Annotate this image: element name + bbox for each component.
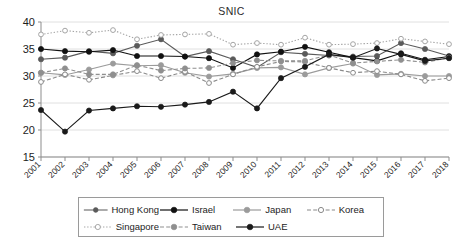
data-point (159, 33, 164, 38)
data-point (134, 104, 139, 109)
data-point (255, 64, 260, 69)
x-axis-tick-label: 2007 (166, 159, 187, 180)
series-hong-kong (38, 37, 451, 70)
legend-item-hong-kong[interactable]: Hong Kong (83, 204, 159, 216)
legend-key-taiwan (159, 221, 189, 233)
data-point (86, 49, 91, 54)
chart-legend: Hong KongIsraelJapanKorea SingaporeTaiwa… (78, 197, 384, 237)
data-point (38, 46, 43, 51)
x-axis-tick-label: 2008 (190, 159, 211, 180)
x-axis-tick-label: 2002 (46, 159, 67, 180)
data-point (63, 28, 68, 33)
gridlines (41, 22, 449, 157)
data-point (134, 53, 139, 58)
data-point (254, 58, 259, 63)
data-point (206, 99, 211, 104)
data-point (110, 47, 115, 52)
legend-item-label: Israel (192, 204, 215, 215)
data-point (182, 54, 187, 59)
data-point (254, 52, 259, 57)
legend-key-singapore (83, 221, 113, 233)
legend-item-japan[interactable]: Japan (232, 204, 305, 216)
data-point (423, 78, 428, 83)
legend-item-label: UAE (268, 221, 288, 232)
data-point (158, 104, 163, 109)
x-axis-tick-label: 2005 (118, 159, 139, 180)
x-axis-tick-label: 2013 (310, 159, 331, 180)
x-axis-tick-label: 2004 (94, 159, 115, 180)
x-axis-tick-label: 2012 (286, 159, 307, 180)
data-point (375, 69, 380, 74)
legend-item-singapore[interactable]: Singapore (83, 221, 159, 233)
data-point (351, 70, 356, 75)
legend-item-label: Singapore (116, 221, 159, 232)
x-axis-tick-label: 2014 (334, 159, 355, 180)
data-point (111, 28, 116, 33)
data-point (158, 63, 163, 68)
data-point (110, 106, 115, 111)
x-axis-tick-label: 2016 (382, 159, 403, 180)
data-point (350, 55, 355, 60)
x-axis-tick-label: 2017 (406, 159, 427, 180)
data-point (63, 72, 68, 77)
data-point (326, 52, 331, 57)
data-point (374, 53, 379, 58)
legend-key-hong-kong (83, 204, 108, 216)
data-point (327, 42, 332, 47)
x-axis-tick-label: 2015 (358, 159, 379, 180)
data-point (38, 70, 43, 75)
data-point (230, 89, 235, 94)
series-singapore (39, 28, 452, 47)
data-point (351, 42, 356, 47)
data-point (183, 32, 188, 37)
x-axis-tick-label: 2011 (262, 159, 282, 179)
data-point (206, 49, 211, 54)
legend-item-label: Hong Kong (111, 204, 159, 215)
data-point (375, 41, 380, 46)
data-point (158, 53, 163, 58)
x-axis-tick-label: 2006 (142, 159, 163, 180)
data-point (399, 36, 404, 41)
data-point (230, 60, 235, 65)
legend-item-label: Korea (339, 204, 364, 215)
data-point (110, 72, 115, 77)
series-uae (38, 46, 451, 134)
data-point (447, 42, 452, 47)
data-point (182, 66, 187, 71)
data-point (134, 43, 139, 48)
data-point (206, 65, 211, 70)
data-point (86, 72, 91, 77)
data-point (39, 32, 44, 37)
chart-figure: SNIC 152025303540 2001200220032004200520… (0, 0, 463, 251)
axes (38, 22, 449, 161)
legend-key-korea (306, 204, 336, 216)
data-point (278, 76, 283, 81)
data-point (302, 58, 307, 63)
data-point (302, 44, 307, 49)
x-axis-tick-label: 2018 (430, 159, 451, 180)
data-point (423, 39, 428, 44)
legend-item-uae[interactable]: UAE (235, 221, 311, 233)
data-point (422, 73, 427, 78)
data-point (62, 129, 67, 134)
data-point (62, 66, 67, 71)
y-axis-tick-label: 40 (23, 16, 35, 28)
data-point (110, 61, 115, 66)
legend-item-taiwan[interactable]: Taiwan (159, 221, 235, 233)
data-point (206, 74, 211, 79)
legend-item-korea[interactable]: Korea (306, 204, 379, 216)
data-point (398, 57, 403, 62)
data-point (206, 56, 211, 61)
data-point (86, 67, 91, 72)
y-axis-tick-label: 25 (23, 97, 35, 109)
data-series-layer (38, 28, 451, 135)
data-point (87, 30, 92, 35)
data-point (422, 46, 427, 51)
data-point (135, 37, 140, 42)
data-point (207, 81, 212, 86)
x-axis-tick-labels: 2001200220032004200520062007200820092010… (22, 159, 451, 180)
data-point (278, 58, 283, 63)
series-line (41, 30, 449, 45)
data-point (278, 49, 283, 54)
legend-item-israel[interactable]: Israel (159, 204, 232, 216)
